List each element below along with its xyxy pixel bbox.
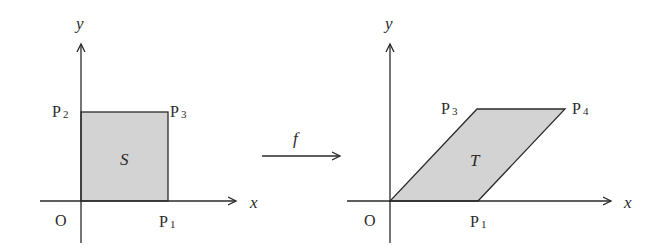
map-label-f: f xyxy=(293,129,300,148)
left-origin-label: O xyxy=(55,212,67,229)
right-point-p1-label: P1 xyxy=(470,213,486,230)
left-point-p2-label: P2 xyxy=(52,103,68,120)
left-point-p3-label: P3 xyxy=(170,103,187,120)
right-panel: y x O T P1 P3 P4 xyxy=(347,14,632,243)
right-point-p4-label: P4 xyxy=(572,100,589,117)
region-label-s: S xyxy=(120,150,129,169)
right-x-axis-label: x xyxy=(623,193,632,212)
right-point-p3-label: P3 xyxy=(441,100,458,117)
map-f: f xyxy=(262,129,340,156)
diagram-canvas: y x O S P1 P2 P3 f y x O T P1 P3 P4 xyxy=(0,0,669,250)
left-x-axis-label: x xyxy=(249,193,258,212)
left-y-axis-label: y xyxy=(74,14,84,33)
right-y-axis-label: y xyxy=(383,14,393,33)
left-panel: y x O S P1 P2 P3 xyxy=(40,14,258,243)
left-point-p1-label: P1 xyxy=(159,213,175,230)
region-label-t: T xyxy=(470,151,481,170)
right-origin-label: O xyxy=(364,212,376,229)
